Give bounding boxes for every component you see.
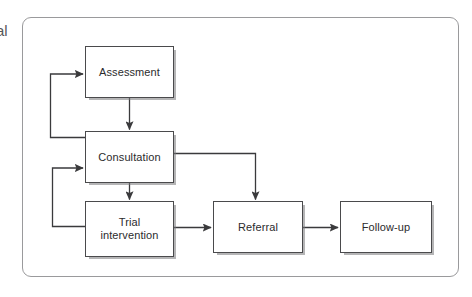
node-trial-intervention[interactable]: Trial intervention	[85, 201, 174, 257]
node-follow-up[interactable]: Follow-up	[340, 201, 432, 253]
connector-trial-to-consultation	[53, 168, 86, 227]
node-consultation[interactable]: Consultation	[85, 131, 174, 183]
connector-consultation-to-assessment	[51, 74, 86, 138]
node-referral[interactable]: Referral	[213, 201, 303, 253]
connector-consultation-to-referral	[174, 154, 256, 200]
figure-canvas: al Assessment Consultation Trial	[0, 0, 472, 297]
node-assessment[interactable]: Assessment	[85, 46, 174, 98]
